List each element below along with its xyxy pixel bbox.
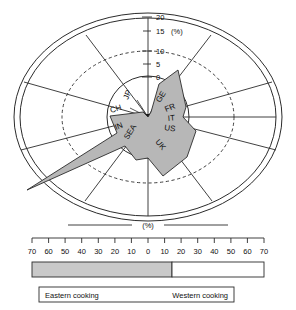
legend-label-eastern: Eastern cooking (45, 291, 99, 300)
country-label-US: US (164, 123, 176, 133)
bar-western-segment (172, 262, 264, 277)
scale-label-2: 50 (61, 247, 69, 256)
horizontal-scale-axis: 70 60 50 40 30 20 10 0 10 20 30 40 50 60… (28, 238, 268, 256)
scale-label-5: 20 (111, 247, 119, 256)
radial-axis-unit-label: (%) (171, 27, 183, 36)
scale-tick-labels: 70 60 50 40 30 20 10 0 10 20 30 40 50 60… (28, 247, 268, 256)
radial-tick-label-5: 5 (156, 60, 160, 69)
scale-label-13: 60 (243, 247, 251, 256)
scale-label-6: 10 (127, 247, 135, 256)
country-label-CH: CH (109, 103, 123, 115)
scale-label-9: 20 (177, 247, 185, 256)
radar-chart-group: 20 15 10 5 0 (%) JP GE FR IT US UK SEA I… (14, 13, 282, 221)
scale-label-4: 30 (94, 247, 102, 256)
radar-and-bar-chart: 20 15 10 5 0 (%) JP GE FR IT US UK SEA I… (0, 0, 296, 310)
bar-eastern-segment (32, 262, 172, 277)
divider-with-unit: (%) (68, 221, 228, 230)
legend-label-western: Western cooking (172, 291, 228, 300)
country-label-JP: JP (122, 89, 134, 101)
scale-label-14: 70 (260, 247, 268, 256)
radial-axis-ticks (142, 17, 152, 77)
scale-label-7: 0 (146, 247, 150, 256)
scale-label-8: 10 (160, 247, 168, 256)
scale-label-11: 40 (210, 247, 218, 256)
scale-label-10: 30 (194, 247, 202, 256)
radial-tick-label-0: 0 (156, 73, 160, 82)
scale-label-12: 50 (227, 247, 235, 256)
legend-box: Eastern cooking Western cooking (39, 287, 234, 302)
scale-ticks (32, 238, 264, 243)
divider-unit-label: (%) (142, 221, 154, 230)
radial-tick-label-20: 20 (156, 13, 164, 22)
country-label-IT: IT (167, 113, 175, 123)
figure-root: 20 15 10 5 0 (%) JP GE FR IT US UK SEA I… (0, 0, 296, 310)
radial-tick-label-15: 15 (156, 27, 164, 36)
scale-label-3: 40 (78, 247, 86, 256)
scale-label-0: 70 (28, 247, 36, 256)
radial-tick-label-10: 10 (156, 47, 164, 56)
stacked-proportion-bar (32, 262, 264, 277)
scale-label-1: 60 (44, 247, 52, 256)
